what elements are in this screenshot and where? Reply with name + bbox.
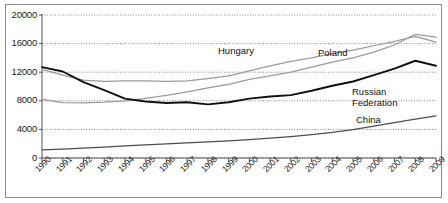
y-axis-tick-label: 20000 <box>12 9 37 20</box>
y-axis-tick-label: 16000 <box>12 37 37 48</box>
chart-container: 040008000120001600020000 199019911992199… <box>0 0 448 203</box>
series-label-russian-federation: RussianFederation <box>352 86 397 108</box>
series-label-poland: Poland <box>318 47 348 58</box>
y-axis-tick-label: 4000 <box>17 123 37 134</box>
y-axis-tick-label: 12000 <box>12 66 37 77</box>
y-axis-tick-label: 0 <box>32 152 37 163</box>
y-axis-tick-label: 8000 <box>17 94 37 105</box>
series-label-china: China <box>356 114 381 125</box>
series-label-hungary: Hungary <box>218 45 254 56</box>
